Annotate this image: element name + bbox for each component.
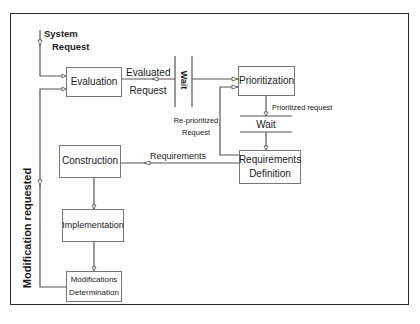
reqdef-line1: Requirements [239,153,301,168]
system-request-line2: Request [44,41,89,54]
moddet-line2: Determination [69,287,119,300]
reprioritized-line1: Re-prioritized [170,116,222,126]
system-request-line1: System [44,28,89,41]
evaluated-request-line2: Request [126,84,170,98]
reqdef-line2: Definition [249,167,291,182]
reprioritized-line2: Request [170,128,222,138]
moddet-line1: Modifications [71,274,118,287]
edge-reprioritized [220,87,239,155]
node-evaluation: Evaluation [66,67,122,97]
wait-horizontal-label: Wait [240,118,292,132]
node-construction: Construction [59,145,121,178]
reprioritized-request-label: Re-prioritized Request [170,116,222,138]
edge-modification-requested [40,89,66,287]
requirements-label: Requirements [150,150,206,162]
node-prioritization: Prioritization [238,66,295,96]
node-implementation: Implementation [62,209,124,242]
process-flow-diagram: System Request Evaluated Request Wait Re… [0,0,420,324]
node-modifications-determination: Modifications Determination [66,271,122,302]
evaluated-request-line1: Evaluated [126,66,170,80]
evaluated-request-label: Evaluated Request [126,66,170,97]
modification-requested-label: Modification requested [21,154,35,302]
system-request-label: System Request [44,28,89,54]
node-requirements-definition: Requirements Definition [239,150,301,184]
prioritized-request-label: Prioritized request [272,103,332,113]
wait-vertical-label: Wait [179,66,189,94]
